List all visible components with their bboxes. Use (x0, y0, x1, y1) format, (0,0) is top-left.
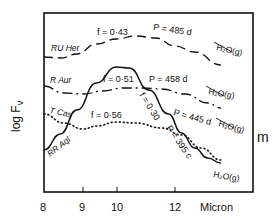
p-t-cas: P = 445 d (172, 107, 212, 127)
x-tick-labels: 8 9 10 12 Micron (40, 201, 233, 213)
p-rr-aql: P = 395 c (164, 123, 194, 160)
f-r-aur: f = 0·51 (103, 74, 134, 84)
f-ru-her: f = 0·43 (97, 27, 128, 37)
tick-10: 10 (111, 201, 123, 213)
tick-9: 9 (79, 201, 85, 213)
h2o-r-aur: H₂O(g) (208, 86, 236, 100)
p-ru-her: P = 485 d (153, 22, 193, 37)
h2o-rr-aql: H₂O(g) (213, 169, 241, 183)
label-r-aur: R Aur (50, 75, 73, 85)
y-axis-label: log Fν (9, 100, 25, 132)
right-label: m (257, 129, 269, 145)
p-r-aur: P = 458 d (149, 74, 188, 84)
tick-12: 12 (169, 201, 181, 213)
f-rr-aql: f = 0·30 (137, 91, 162, 122)
tick-8: 8 (40, 201, 46, 213)
f-t-cas: f = 0·56 (91, 110, 122, 120)
chart: log Fν m 8 9 10 12 Micron RU Her R Aur T… (0, 0, 275, 216)
series-r-aur (44, 86, 221, 108)
h2o-ru-her: H₂O(g) (216, 42, 244, 57)
label-ru-her: RU Her (51, 43, 81, 53)
x-axis-label: Micron (200, 201, 233, 213)
